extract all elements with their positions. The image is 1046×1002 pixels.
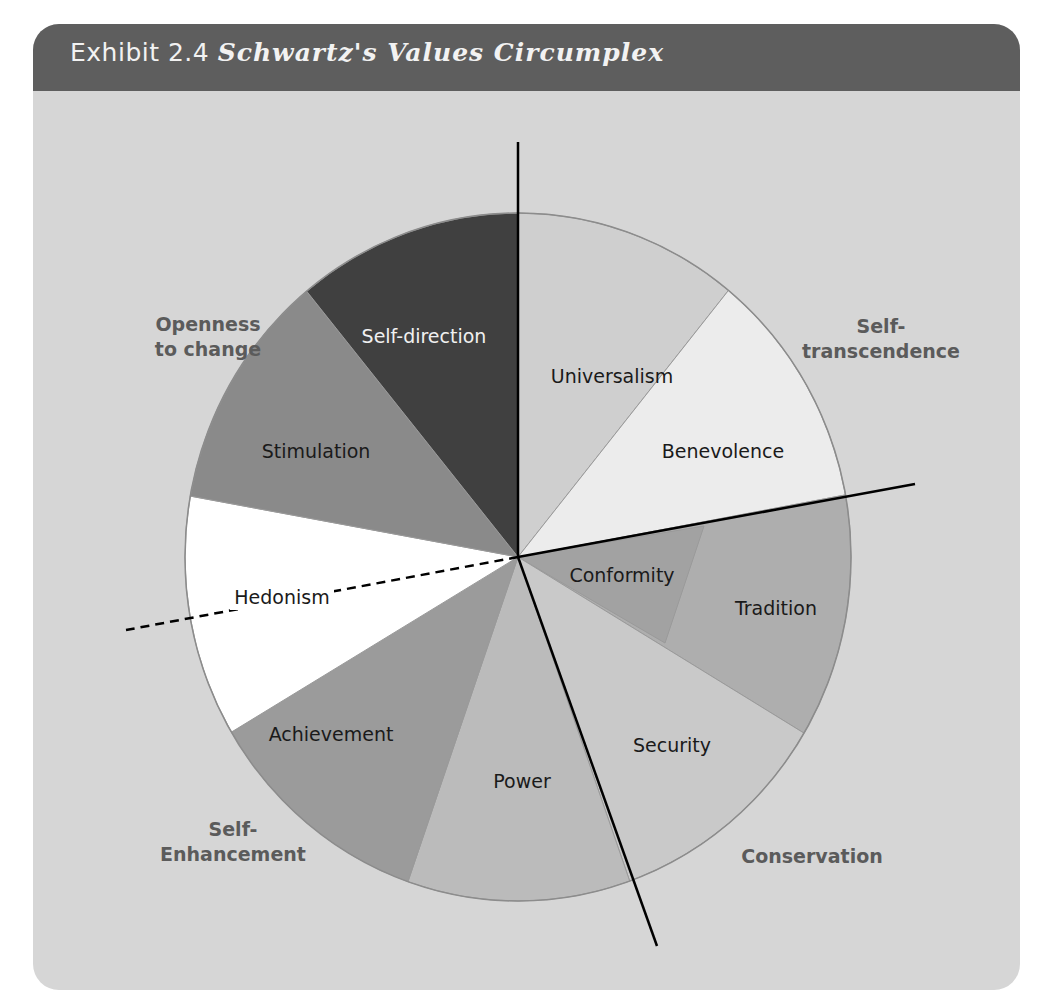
label-security: Security [633,734,711,756]
label-power: Power [493,770,551,792]
group-self-transcendence: Self-transcendence [802,315,960,362]
group-openness-to-change: Opennessto change [155,313,261,360]
label-conformity: Conformity [569,564,674,586]
label-hedonism: Hedonism [234,586,329,608]
label-universalism: Universalism [551,365,673,387]
label-tradition: Tradition [734,597,817,619]
group-conservation: Conservation [741,845,882,867]
group-self-enhancement: Self-Enhancement [160,818,306,865]
label-self-direction: Self-direction [362,325,487,347]
label-stimulation: Stimulation [262,440,371,462]
label-benevolence: Benevolence [662,440,784,462]
label-achievement: Achievement [269,723,394,745]
values-circumplex-diagram: UniversalismBenevolenceTraditionConformi… [0,0,1046,1002]
